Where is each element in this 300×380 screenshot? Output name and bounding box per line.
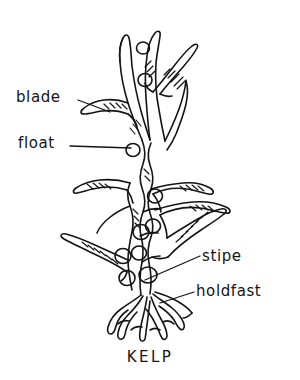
label-stipe: stipe <box>202 249 242 264</box>
leader-line-float <box>70 146 131 148</box>
label-holdfast: holdfast <box>196 284 261 299</box>
figure-caption: KELP <box>0 348 300 366</box>
label-float: float <box>18 136 55 151</box>
blade-shapes <box>61 31 230 281</box>
kelp-line-art <box>0 0 300 380</box>
kelp-diagram: blade float stipe holdfast KELP <box>0 0 300 380</box>
holdfast-shape <box>108 292 192 341</box>
label-blade: blade <box>16 90 61 105</box>
leader-lines <box>70 100 200 303</box>
